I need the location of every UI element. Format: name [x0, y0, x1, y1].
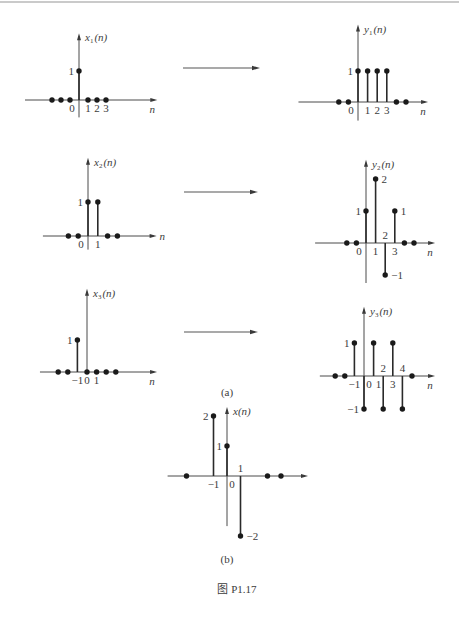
title-subscript: 3 [98, 293, 102, 301]
tick-label: 0 [356, 245, 362, 257]
sample-dot [390, 340, 395, 345]
stem-plots: x1(n)n01231y1(n)n01231x2(n)n011y2(n)n012… [25, 23, 435, 543]
tick-label: 1 [365, 104, 371, 116]
x-axis-arrow-icon [421, 100, 428, 104]
plot-x: x(n)−10121−2 [168, 405, 308, 542]
tick-label: 1 [373, 245, 379, 257]
sample-dot [400, 406, 405, 411]
x-axis-label: n [427, 246, 433, 258]
value-label: 1 [348, 65, 354, 77]
y-axis-arrow-icon [364, 160, 368, 167]
figure-p1-17: x1(n)n01231y1(n)n01231x2(n)n011y2(n)n012… [0, 0, 459, 617]
tick-label: 1 [376, 378, 382, 390]
plot-title: y3(n) [369, 305, 393, 319]
sample-dot [224, 443, 229, 448]
sample-dot [344, 240, 349, 245]
sample-dot [184, 473, 189, 478]
sample-dot [105, 233, 110, 238]
y-axis-arrow-icon [362, 307, 366, 314]
plot-title: y2(n) [371, 158, 395, 172]
title-argument: (n) [94, 31, 107, 44]
tick-label: 2 [382, 229, 388, 241]
sample-dot [49, 97, 54, 102]
x-axis-arrow-icon [428, 374, 435, 378]
sample-dot [392, 208, 397, 213]
y-axis-arrow-icon [85, 289, 89, 296]
title-argument: (n) [102, 287, 115, 300]
sample-dot [75, 337, 80, 342]
x-axis-label: n [420, 105, 426, 117]
sample-dot [411, 240, 416, 245]
tick-label: −1 [208, 478, 220, 490]
title-subscript: 1 [90, 37, 94, 45]
tick-label: −1 [72, 374, 84, 386]
value-label: 1 [69, 65, 75, 77]
value-label: 1 [356, 205, 362, 217]
value-label: −2 [247, 530, 259, 542]
tick-label: 0 [366, 378, 372, 390]
sample-dot [342, 373, 347, 378]
tick-label: 2 [374, 104, 380, 116]
sample-dot [352, 340, 357, 345]
sample-dot [58, 97, 63, 102]
caption-b: (b) [221, 553, 234, 566]
figure-label: 图 P1.17 [217, 583, 257, 595]
title-subscript: 3 [375, 311, 379, 319]
title-subscript: 2 [377, 164, 381, 172]
x-axis-arrow-icon [428, 241, 435, 245]
tick-label: 1 [85, 102, 91, 114]
plot-title: x(n) [232, 405, 251, 418]
sample-dot [65, 369, 70, 374]
title-subscript: 1 [369, 29, 373, 37]
y-axis-arrow-icon [77, 33, 81, 40]
sample-dot [56, 369, 61, 374]
tick-label: 2 [94, 102, 100, 114]
x-axis-arrow-icon [150, 234, 157, 238]
sample-dot [278, 473, 283, 478]
title-argument: (n) [103, 156, 116, 169]
title-argument: (n) [379, 305, 392, 318]
sample-dot [85, 199, 90, 204]
sample-dot [113, 369, 118, 374]
plot-title: x3(n) [92, 287, 116, 301]
mapping-arrow-x2-to-y2 [184, 190, 258, 194]
value-label: 1 [217, 440, 223, 452]
x-axis-label: n [160, 230, 166, 242]
sample-dot [95, 199, 100, 204]
title-argument: (n) [381, 158, 394, 171]
sample-dot [394, 99, 399, 104]
sample-dot [104, 369, 109, 374]
y-axis-arrow-icon [225, 407, 229, 414]
tick-label: 1 [94, 374, 100, 386]
x-axis-label: n [427, 379, 433, 391]
value-label: −1 [347, 403, 359, 415]
value-label: 1 [78, 196, 84, 208]
tick-label: 1 [238, 462, 244, 474]
tick-label: 1 [95, 238, 101, 250]
tick-label: 4 [400, 362, 406, 374]
mapping-arrow-x3-to-y3 [184, 330, 258, 334]
sample-dot [381, 406, 386, 411]
sample-dot [373, 176, 378, 181]
tick-label: 3 [384, 104, 390, 116]
tick-label: 3 [390, 378, 396, 390]
mapping-arrows [183, 66, 260, 334]
value-label: 1 [67, 334, 73, 346]
title-subscript: 2 [99, 162, 103, 170]
mapping-arrow-x1-to-y1 [183, 66, 260, 70]
sample-dot [333, 373, 338, 378]
x-axis-label: n [150, 103, 156, 115]
x-axis-arrow-icon [301, 474, 308, 478]
plot-x2: x2(n)n011 [43, 156, 166, 250]
sample-dot [355, 68, 360, 73]
sample-dot [402, 240, 407, 245]
y-axis-arrow-icon [86, 158, 90, 165]
plot-title: x2(n) [93, 156, 117, 170]
sample-dot [115, 233, 120, 238]
sample-dot [383, 272, 388, 277]
sample-dot [66, 233, 71, 238]
tick-label: 3 [392, 245, 398, 257]
sample-dot [336, 99, 341, 104]
title-argument: (n) [238, 405, 251, 418]
sample-dot [76, 68, 81, 73]
